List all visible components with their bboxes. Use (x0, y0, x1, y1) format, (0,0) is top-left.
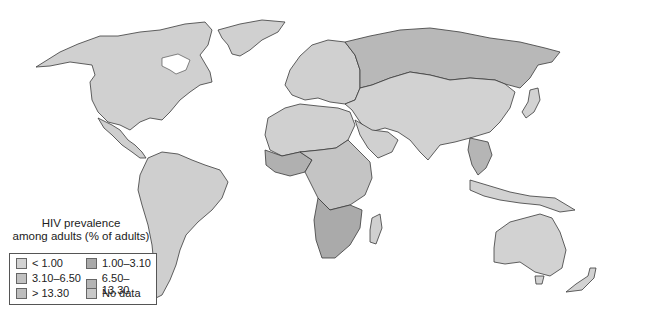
legend-item-1-3: 1.00–3.10 (86, 257, 151, 269)
legend: < 1.00 1.00–3.10 3.10–6.50 6.50–13.30 > … (9, 253, 157, 305)
legend-item-lt1: < 1.00 (16, 257, 63, 269)
region-tasmania (535, 276, 544, 284)
legend-label: > 13.30 (32, 287, 69, 299)
legend-swatch (16, 273, 27, 284)
legend-label: No data (102, 287, 141, 299)
legend-swatch (86, 258, 97, 269)
legend-item-gt13: > 13.30 (16, 287, 69, 299)
legend-label: 3.10–6.50 (32, 272, 81, 284)
region-madagascar (370, 214, 382, 244)
legend-title: HIV prevalence among adults (% of adults… (6, 217, 156, 243)
region-russia (345, 28, 560, 88)
legend-title-line1: HIV prevalence (6, 217, 156, 230)
region-japan (522, 88, 540, 118)
region-greenland (218, 20, 285, 56)
region-australia (494, 214, 566, 276)
region-new-zealand (566, 268, 596, 292)
legend-item-no-data: No data (86, 287, 141, 299)
legend-item-3-6: 3.10–6.50 (16, 272, 81, 284)
legend-label: < 1.00 (32, 257, 63, 269)
legend-swatch (16, 288, 27, 299)
legend-title-line2: among adults (% of adults) (6, 230, 156, 243)
region-north-america (36, 22, 212, 130)
legend-swatch (16, 258, 27, 269)
legend-label: 1.00–3.10 (102, 257, 151, 269)
region-southeast-asia (468, 138, 492, 175)
region-indonesia (470, 180, 575, 212)
region-europe (285, 40, 360, 104)
legend-swatch (86, 288, 97, 299)
